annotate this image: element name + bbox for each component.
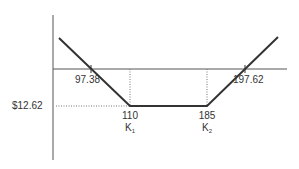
strike-2-label: K2 <box>202 123 212 134</box>
strike-2-letter: K <box>202 122 209 133</box>
breakeven-low-label: 97.38 <box>75 75 100 85</box>
strike-1-value: 110 <box>122 111 138 121</box>
breakeven-high-label: 197.62 <box>233 75 264 85</box>
strike-1-letter: K <box>125 122 132 133</box>
strike-1-label: K1 <box>125 123 135 134</box>
loss-level-label: $12.62 <box>12 101 43 111</box>
strike-2-value: 185 <box>199 111 216 121</box>
strike-2-subscript: 2 <box>209 128 212 134</box>
strike-1-subscript: 1 <box>132 128 135 134</box>
